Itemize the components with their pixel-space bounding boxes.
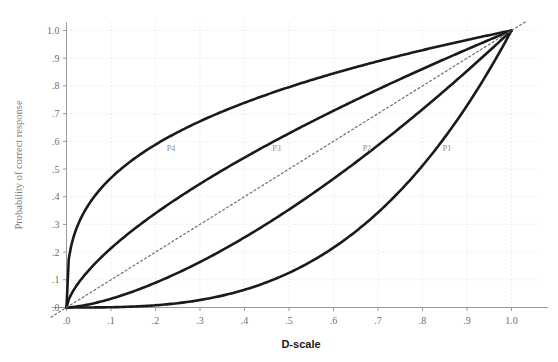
curve-label-p1: P1 bbox=[443, 144, 451, 153]
x-tick-label: .7 bbox=[374, 315, 382, 326]
x-axis-title: D-scale bbox=[281, 338, 320, 350]
y-axis-title: Probability of correct response bbox=[13, 100, 24, 230]
x-tick-label: .1 bbox=[107, 315, 115, 326]
curve-label-p3: P3 bbox=[272, 144, 280, 153]
x-tick-label: .9 bbox=[463, 315, 471, 326]
x-tick-label: .2 bbox=[152, 315, 160, 326]
x-tick-label: .3 bbox=[196, 315, 204, 326]
y-tick-label: .6 bbox=[52, 136, 60, 147]
y-tick-label: .9 bbox=[52, 53, 60, 64]
chart-figure: .0.1.2.3.4.5.6.7.8.91.0 .0.1.2.3.4.5.6.7… bbox=[0, 0, 558, 362]
x-tick-label: .8 bbox=[419, 315, 427, 326]
x-tick-label: .6 bbox=[330, 315, 338, 326]
y-tick-label: .1 bbox=[52, 274, 60, 285]
y-tick-label: .0 bbox=[52, 302, 60, 313]
x-tick-label: .4 bbox=[241, 315, 249, 326]
y-tick-label: .8 bbox=[52, 80, 60, 91]
y-tick-label: .4 bbox=[52, 191, 60, 202]
y-tick-label: .5 bbox=[52, 164, 60, 175]
y-tick-label: 1.0 bbox=[47, 25, 60, 36]
x-tick-label: .5 bbox=[285, 315, 293, 326]
y-tick-label: .3 bbox=[52, 219, 60, 230]
x-tick-label: .0 bbox=[63, 315, 71, 326]
x-tick-label: 1.0 bbox=[505, 315, 518, 326]
curve-label-p2: P2 bbox=[363, 144, 371, 153]
curve-label-p4: P4 bbox=[167, 144, 175, 153]
probability-d-scale-plot: .0.1.2.3.4.5.6.7.8.91.0 .0.1.2.3.4.5.6.7… bbox=[0, 0, 558, 362]
y-tick-label: .2 bbox=[52, 247, 60, 258]
y-tick-label: .7 bbox=[52, 108, 60, 119]
